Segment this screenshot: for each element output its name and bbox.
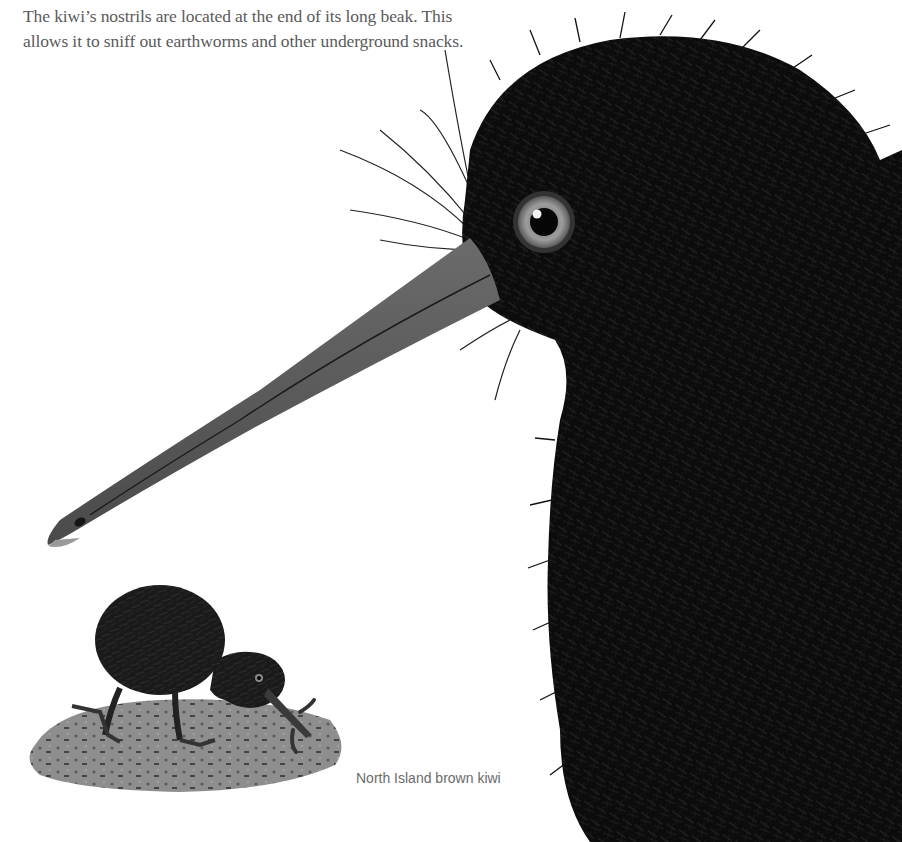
species-caption: North Island brown kiwi xyxy=(356,770,501,786)
kiwi-eye xyxy=(513,191,575,253)
book-page: The kiwi’s nostrils are located at the e… xyxy=(0,0,902,842)
small-kiwi xyxy=(30,585,342,792)
intro-paragraph: The kiwi’s nostrils are located at the e… xyxy=(23,4,483,54)
kiwi-illustration xyxy=(0,0,902,842)
kiwi-body xyxy=(462,36,902,842)
